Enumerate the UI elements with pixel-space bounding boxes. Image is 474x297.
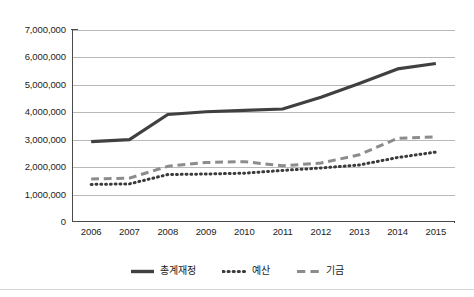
legend-swatch-solid-icon <box>130 266 155 277</box>
x-axis-tick-label: 2011 <box>273 226 293 238</box>
x-axis-tick-label: 2008 <box>157 226 178 238</box>
bottom-divider <box>0 289 474 290</box>
legend-item[interactable]: 기금 <box>296 265 344 277</box>
y-axis-tick-label: 0 <box>0 217 66 227</box>
chart-legend: 총계재정예산기금 <box>0 262 474 280</box>
y-axis-tick-label: 1,000,000 <box>0 190 66 200</box>
line-chart-figure: 7,000,0006,000,0005,000,0004,000,0003,00… <box>0 0 474 297</box>
y-axis-labels: 7,000,0006,000,0005,000,0004,000,0003,00… <box>0 0 66 297</box>
legend-label: 총계재정 <box>160 265 196 277</box>
x-axis-tick-label: 2012 <box>311 226 332 238</box>
x-axis-labels: 2006200720082009201020112012201320142015 <box>72 226 455 242</box>
legend-label: 예산 <box>252 265 270 277</box>
y-axis-tick-label: 2,000,000 <box>0 162 66 172</box>
x-axis-tick-label: 2009 <box>196 226 217 238</box>
x-axis-tick-label: 2014 <box>387 226 408 238</box>
y-axis-tick-label: 3,000,000 <box>0 135 66 145</box>
x-axis-tick-label: 2007 <box>119 226 140 238</box>
legend-swatch-dashed-icon <box>296 266 321 277</box>
legend-item[interactable]: 예산 <box>222 265 270 277</box>
y-axis-tick-label: 4,000,000 <box>0 107 66 117</box>
x-axis-tick-label: 2015 <box>425 226 446 238</box>
plot-area <box>72 30 455 222</box>
legend-label: 기금 <box>326 265 344 277</box>
gridline <box>73 57 455 58</box>
y-axis-tick-label: 5,000,000 <box>0 80 66 90</box>
x-axis-tick-label: 2006 <box>81 226 102 238</box>
gridline <box>73 112 455 113</box>
x-axis-tick-label: 2010 <box>234 226 255 238</box>
gridline <box>73 30 455 31</box>
x-axis-tick-label: 2013 <box>349 226 370 238</box>
y-axis-tick-label: 6,000,000 <box>0 52 66 62</box>
gridline <box>73 140 455 141</box>
y-axis-tick-label: 7,000,000 <box>0 25 66 35</box>
legend-item[interactable]: 총계재정 <box>130 265 196 277</box>
gridline <box>73 195 455 196</box>
gridline <box>73 85 455 86</box>
gridline <box>73 167 455 168</box>
legend-swatch-dotted-icon <box>222 266 247 277</box>
